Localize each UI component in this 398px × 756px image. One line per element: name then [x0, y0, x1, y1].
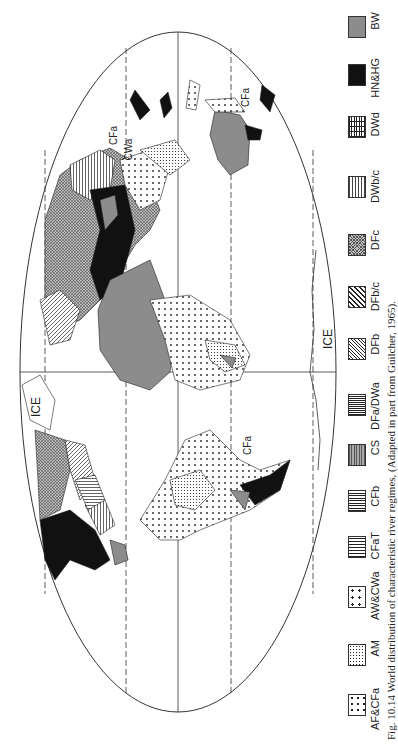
legend-item-dfa-dwa: DFa/DWa	[346, 390, 386, 430]
legend-item-cfat: CFaT	[346, 532, 386, 572]
label-cfa-asia: CFa	[108, 126, 119, 145]
legend-item-dwb-c: DWb/c	[346, 170, 386, 210]
legend-item-af-cfa: AF&CFa	[346, 690, 386, 730]
swatch-dense-vertical-lines	[348, 394, 366, 416]
swatch-vertical-lines-bold	[348, 490, 366, 512]
swatch-sparse-dots	[348, 694, 366, 716]
swatch-diagonal-fine	[348, 338, 366, 360]
north-america	[35, 430, 128, 580]
legend-item-aw-cwa: AW&CWa	[346, 580, 386, 620]
swatch-solid-grey	[348, 16, 366, 38]
legend-item-dfc: DFc	[346, 230, 386, 270]
antarctica	[310, 250, 320, 470]
legend-item-dfb: DFb	[346, 334, 386, 374]
south-america	[140, 430, 290, 540]
africa	[98, 260, 250, 390]
label-ice-greenland: ICE	[29, 397, 43, 417]
legend-item-cfb: CFb	[346, 486, 386, 526]
world-river-regime-map	[0, 0, 398, 756]
label-cfa-south-america: CFa	[242, 436, 253, 455]
swatch-diagonal-wide	[348, 286, 366, 308]
swatch-crosshatch-fine	[348, 234, 366, 256]
swatch-large-dots	[348, 586, 366, 608]
label-cfa-australia: CFa	[240, 88, 251, 107]
legend-item-cs: CS	[346, 440, 386, 480]
legend-item-am: AM	[346, 640, 386, 680]
label-ice-antarctica: ICE	[321, 329, 335, 349]
swatch-grid	[348, 116, 366, 138]
label-cwa-asia: CWa	[123, 139, 134, 161]
legend-item-dfb-c: DFb/c	[346, 282, 386, 322]
legend-item-dwd: DWd	[346, 112, 386, 152]
swatch-horizontal-lines-grey	[348, 444, 366, 466]
swatch-vertical-lines	[348, 536, 366, 558]
swatch-horizontal-dashes	[348, 176, 366, 198]
swatch-dense-dots	[348, 644, 366, 666]
legend-item-bw: BW	[346, 12, 386, 52]
figure-caption: Fig. 10.14 World distribution of charact…	[384, 10, 398, 740]
swatch-solid-black	[348, 64, 366, 86]
legend-item-hn-hg: HN&HG	[346, 58, 386, 98]
